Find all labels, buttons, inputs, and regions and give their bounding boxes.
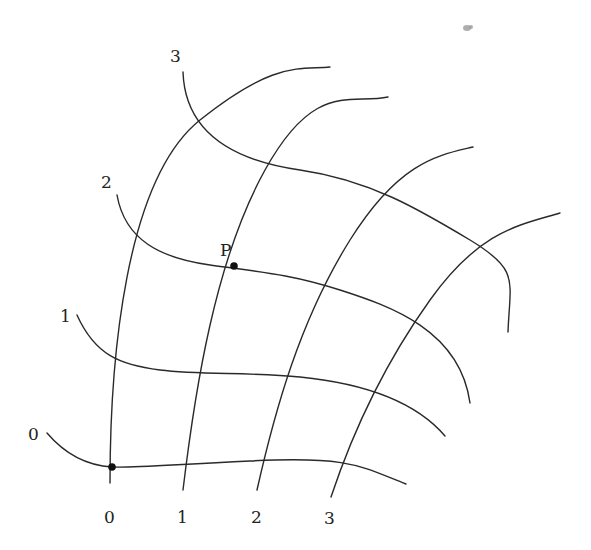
u-label-1: 1 [177, 507, 188, 527]
u-curve-0 [110, 67, 330, 483]
v-curve-1 [77, 315, 445, 436]
u-curve-3 [331, 213, 560, 497]
point-p-marker [230, 262, 238, 270]
v-axis-labels: 0 1 2 3 [28, 46, 181, 444]
u-curve-2 [257, 147, 473, 490]
point-p-label: P [220, 240, 231, 260]
v-curve-3 [183, 72, 510, 332]
coordinate-grid-diagram: 0 1 2 3 0 1 2 3 P [0, 0, 591, 550]
smudge-mark [463, 25, 473, 31]
u-curve-family [110, 67, 560, 497]
v-label-3: 3 [170, 46, 181, 66]
u-label-0: 0 [104, 507, 115, 527]
v-label-1: 1 [60, 306, 71, 326]
u-axis-labels: 0 1 2 3 [104, 507, 335, 528]
u-label-3: 3 [324, 508, 335, 528]
origin-point-marker [108, 463, 116, 471]
u-label-2: 2 [251, 507, 262, 527]
v-label-2: 2 [101, 172, 112, 192]
u-curve-1 [183, 97, 388, 490]
v-curve-family [47, 72, 510, 484]
v-curve-2 [117, 195, 470, 403]
v-label-0: 0 [28, 424, 39, 444]
